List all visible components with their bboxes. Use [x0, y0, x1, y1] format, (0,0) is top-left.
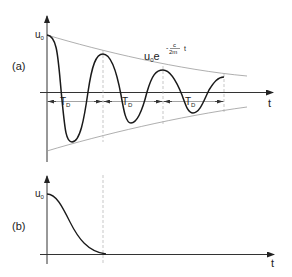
damped-oscillation-diagram: (a) u0 t TD TD TD u0e - c — [0, 0, 292, 277]
panel-a-u0-label: u0 — [35, 29, 45, 41]
panel-a-t-label: t — [268, 97, 271, 109]
decay-curve — [47, 194, 106, 254]
lower-envelope — [47, 107, 247, 151]
envelope-formula: u0e - c 2m t — [144, 42, 186, 63]
panel-a: (a) u0 t TD TD TD u0e - c — [12, 16, 273, 162]
svg-text:c: c — [173, 42, 176, 48]
oscillation-curve — [47, 35, 224, 142]
panel-a-label: (a) — [12, 60, 25, 72]
svg-text:u0e: u0e — [144, 50, 160, 63]
svg-text:2m: 2m — [169, 49, 177, 55]
panel-b: (b) u0 t — [12, 175, 274, 269]
panel-b-label: (b) — [12, 220, 25, 232]
svg-text:t: t — [184, 45, 186, 52]
panel-b-u0-label: u0 — [35, 188, 45, 200]
panel-b-t-label: t — [271, 257, 274, 269]
